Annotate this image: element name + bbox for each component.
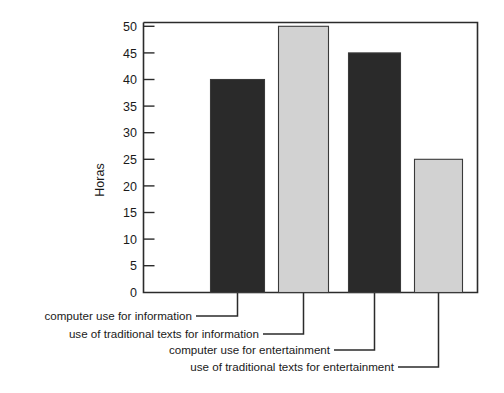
y-tick-label: 35 — [123, 100, 137, 114]
y-tick-label: 30 — [123, 126, 137, 140]
y-axis-ticks — [144, 26, 155, 265]
y-tick-label: 25 — [123, 153, 137, 167]
legend-item-label-2: use of traditional texts for information — [69, 327, 259, 340]
y-tick-label: 0 — [130, 286, 137, 300]
leader-line-2 — [263, 293, 304, 334]
y-axis-tick-labels: 50 45 40 35 30 25 20 15 10 5 0 — [123, 20, 137, 300]
bar-traditional-texts-for-information — [279, 26, 329, 292]
bar-traditional-texts-for-entertainment — [415, 159, 463, 292]
legend-item-label-1: computer use for information — [44, 309, 192, 322]
y-tick-label: 45 — [123, 47, 137, 61]
leader-line-4 — [398, 293, 439, 367]
y-tick-label: 15 — [123, 206, 137, 220]
bar-computer-use-for-entertainment — [349, 53, 401, 293]
y-tick-label: 50 — [123, 20, 137, 34]
bars-group — [211, 26, 463, 292]
leader-line-3 — [334, 293, 375, 350]
y-tick-label: 40 — [123, 73, 137, 87]
y-tick-label: 20 — [123, 180, 137, 194]
legend-item-label-3: computer use for entertainment — [169, 343, 331, 356]
bar-computer-use-for-information — [211, 80, 265, 293]
y-tick-label: 5 — [130, 259, 137, 273]
legend-item-label-4: use of traditional texts for entertainme… — [190, 360, 394, 373]
chart-canvas: 50 45 40 35 30 25 20 15 10 5 0 Horas — [0, 0, 504, 393]
leader-line-1 — [196, 293, 238, 316]
y-axis-title: Horas — [93, 163, 107, 196]
y-tick-label: 10 — [123, 233, 137, 247]
bar-chart: 50 45 40 35 30 25 20 15 10 5 0 Horas — [0, 0, 504, 393]
legend-labels: computer use for information use of trad… — [44, 309, 394, 373]
